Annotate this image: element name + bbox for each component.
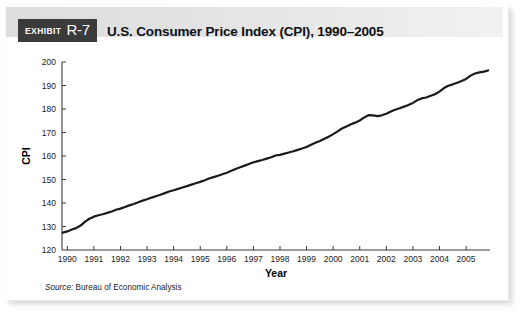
exhibit-badge: EXHIBIT R-7	[18, 19, 97, 42]
exhibit-figure: EXHIBIT R-7 U.S. Consumer Price Index (C…	[0, 0, 524, 315]
page-title: U.S. Consumer Price Index (CPI), 1990–20…	[107, 20, 384, 42]
exhibit-number: R-7	[66, 21, 90, 38]
header-band: EXHIBIT R-7 U.S. Consumer Price Index (C…	[6, 7, 503, 37]
exhibit-label: EXHIBIT	[25, 26, 61, 36]
figure-card	[6, 6, 509, 301]
source-text: Bureau of Economic Analysis	[73, 283, 181, 292]
source-note: Source: Bureau of Economic Analysis	[45, 283, 182, 292]
source-label: Source:	[45, 283, 73, 292]
